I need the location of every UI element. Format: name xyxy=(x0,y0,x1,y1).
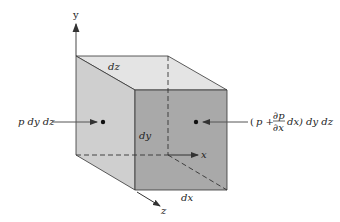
right-force-open-paren: ( xyxy=(250,116,254,127)
right-force-point xyxy=(194,120,198,124)
left-force-label: p dy dz xyxy=(18,116,55,127)
diagram-canvas: y x z dz dy dx p dy dz ( p + ∂p ∂x dx) d… xyxy=(0,0,340,222)
z-axis xyxy=(137,192,160,206)
right-force-tail: dx) dy dz xyxy=(287,116,334,127)
z-axis-label: z xyxy=(160,205,167,216)
right-force-denominator: ∂x xyxy=(273,122,284,133)
dx-label: dx xyxy=(181,192,193,203)
dy-label: dy xyxy=(139,130,151,141)
dz-label: dz xyxy=(108,61,120,72)
right-force-numerator: ∂p xyxy=(273,110,285,121)
y-axis-label: y xyxy=(72,9,79,20)
x-axis-label: x xyxy=(201,149,207,160)
right-force-p: p + xyxy=(256,116,274,127)
left-force-point xyxy=(101,120,105,124)
fluid-element-diagram: y x z dz dy dx p dy dz ( p + ∂p ∂x dx) d… xyxy=(0,0,340,222)
